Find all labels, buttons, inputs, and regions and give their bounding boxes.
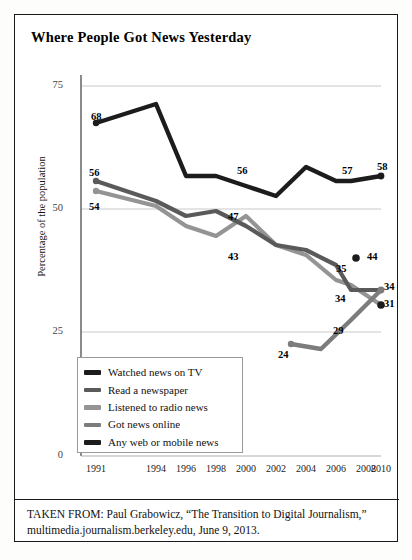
legend-label-web: Any web or mobile news	[108, 437, 219, 448]
legend-swatch-icon-tv	[84, 370, 101, 375]
x-tick-1994: 1994	[139, 463, 173, 474]
legend-swatch-icon-newspaper	[84, 388, 101, 393]
x-tick-2010: 2010	[364, 463, 398, 474]
legend-item-newspaper: Read a newspaper	[84, 381, 242, 398]
label-newspaper-2000: 47	[228, 211, 239, 222]
marker-tv-2010	[378, 173, 385, 180]
label-radio-2002: 43	[228, 251, 239, 262]
label-newspaper-2006: 35	[336, 263, 347, 274]
page-canvas: Where People Got News Yesterday Percenta…	[0, 0, 412, 560]
label-tv-2010: 58	[377, 161, 388, 172]
label-web-2008: 44	[367, 251, 378, 262]
label-web-2010: 31	[384, 298, 395, 309]
legend-swatch-icon-online	[84, 423, 101, 428]
legend-swatch-icon-web	[84, 440, 101, 445]
marker-radio-1991	[93, 188, 99, 194]
legend-item-tv: Watched news on TV	[84, 364, 242, 381]
legend-label-tv: Watched news on TV	[108, 367, 203, 378]
x-tick-2006: 2006	[319, 463, 353, 474]
label-online-2004: 24	[278, 349, 289, 360]
label-online-2008: 29	[333, 325, 344, 336]
chart-legend: Watched news on TV Read a newspaper List…	[77, 357, 243, 453]
chart-plot-area: Percentage of the population 75 50 25 0	[15, 15, 399, 485]
legend-label-online: Got news online	[108, 419, 180, 430]
label-radio-2008: 34	[335, 293, 346, 304]
label-newspaper-1991: 56	[89, 167, 100, 178]
label-radio-1991: 54	[89, 201, 100, 212]
marker-newspaper-1991	[93, 178, 99, 184]
x-tick-2002: 2002	[259, 463, 293, 474]
x-tick-2004: 2004	[289, 463, 323, 474]
x-tick-1991: 1991	[79, 463, 113, 474]
legend-swatch-icon-radio	[84, 405, 101, 410]
x-tick-2000: 2000	[229, 463, 263, 474]
legend-label-radio: Listened to radio news	[108, 402, 208, 413]
label-newspaper-2010: 34	[384, 281, 395, 292]
marker-web-2008	[352, 254, 360, 262]
legend-item-web: Any web or mobile news	[84, 434, 242, 451]
legend-label-newspaper: Read a newspaper	[108, 385, 188, 396]
series-line-tv	[96, 104, 381, 196]
label-tv-2008: 57	[342, 165, 353, 176]
source-caption: TAKEN FROM: Paul Grabowicz, “The Transit…	[27, 507, 385, 538]
label-tv-1991: 68	[91, 111, 102, 122]
series-line-radio	[96, 191, 381, 305]
figure-frame: Where People Got News Yesterday Percenta…	[14, 14, 398, 542]
caption-divider	[15, 499, 399, 500]
legend-item-online: Got news online	[84, 416, 242, 433]
x-tick-1998: 1998	[199, 463, 233, 474]
x-tick-1996: 1996	[169, 463, 203, 474]
label-tv-2000: 56	[237, 165, 248, 176]
marker-online-2004	[288, 341, 294, 347]
legend-item-radio: Listened to radio news	[84, 399, 242, 416]
